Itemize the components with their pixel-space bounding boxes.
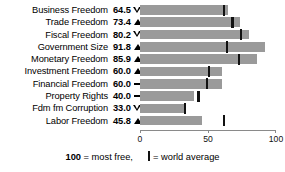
freedom-index-bar-chart: Business Freedom64.5Trade Freedom73.4Fis… xyxy=(0,0,285,172)
world-average-tick xyxy=(231,17,233,28)
row-category-label: Business Freedom xyxy=(32,4,108,16)
chart-row: Business Freedom64.5 xyxy=(0,4,285,16)
legend-scale-value: 100 xyxy=(66,152,82,162)
value-bar xyxy=(140,30,249,40)
x-axis-tick-label: 50 xyxy=(203,134,213,144)
chart-legend: 100 = most free,= world average xyxy=(0,151,285,167)
chart-row: Fdm fm Corruption33.0 xyxy=(0,102,285,114)
world-average-tick xyxy=(208,66,210,77)
row-bar-track xyxy=(140,67,285,77)
value-bar xyxy=(140,42,265,52)
x-axis-tick xyxy=(208,130,209,133)
row-category-label: Trade Freedom xyxy=(46,16,108,28)
x-axis-tick-label: 100 xyxy=(269,134,283,144)
row-bar-track xyxy=(140,5,285,15)
legend-scale-text: = most free, xyxy=(84,152,133,162)
row-value-label: 91.8 xyxy=(108,41,131,53)
row-category-label: Property Rights xyxy=(45,90,108,102)
row-bar-track xyxy=(140,79,285,89)
chart-row: Investment Freedom60.0 xyxy=(0,65,285,77)
row-category-label: Labor Freedom xyxy=(46,115,108,127)
chart-row: Labor Freedom45.8 xyxy=(0,115,285,127)
row-category-label: Financial Freedom xyxy=(33,78,108,90)
row-value-label: 40.0 xyxy=(108,90,131,102)
chart-row: Property Rights40.0 xyxy=(0,90,285,102)
chart-row: Financial Freedom60.0 xyxy=(0,78,285,90)
world-average-tick xyxy=(226,41,228,52)
row-bar-track xyxy=(140,54,285,64)
legend-marker-text: = world average xyxy=(153,152,219,162)
world-average-tick xyxy=(238,54,240,65)
row-value-label: 85.9 xyxy=(108,53,131,65)
x-axis-tick xyxy=(140,130,141,133)
row-value-label: 64.5 xyxy=(108,4,131,16)
world-average-tick xyxy=(223,115,225,126)
value-bar xyxy=(140,17,240,27)
world-average-tick xyxy=(223,5,225,16)
world-average-marker-icon xyxy=(148,151,150,161)
row-value-label: 73.4 xyxy=(108,16,131,28)
row-bar-track xyxy=(140,17,285,27)
row-bar-track xyxy=(140,104,285,114)
row-value-label: 80.2 xyxy=(108,29,131,41)
row-bar-track xyxy=(140,91,285,101)
value-bar xyxy=(140,91,194,101)
row-value-label: 60.0 xyxy=(108,65,131,77)
world-average-tick xyxy=(197,91,199,102)
row-bar-track xyxy=(140,30,285,40)
row-value-label: 33.0 xyxy=(108,102,131,114)
row-value-label: 60.0 xyxy=(108,78,131,90)
x-axis-tick-label: 0 xyxy=(138,134,143,144)
value-bar xyxy=(140,5,228,15)
x-axis-tick xyxy=(275,130,276,133)
world-average-tick xyxy=(206,78,208,89)
row-category-label: Fiscal Freedom xyxy=(45,29,108,41)
value-bar xyxy=(140,79,222,89)
row-category-label: Investment Freedom xyxy=(25,65,108,77)
x-axis: 050100 xyxy=(140,130,276,144)
chart-row: Monetary Freedom85.9 xyxy=(0,53,285,65)
world-average-tick xyxy=(240,29,242,40)
row-bar-track xyxy=(140,116,285,126)
chart-rows: Business Freedom64.5Trade Freedom73.4Fis… xyxy=(0,4,285,127)
row-category-label: Government Size xyxy=(38,41,108,53)
row-category-label: Monetary Freedom xyxy=(31,53,108,65)
row-bar-track xyxy=(140,42,285,52)
value-bar xyxy=(140,104,185,114)
chart-row: Fiscal Freedom80.2 xyxy=(0,29,285,41)
chart-row: Government Size91.8 xyxy=(0,41,285,53)
row-value-label: 45.8 xyxy=(108,115,131,127)
chart-row: Trade Freedom73.4 xyxy=(0,16,285,28)
world-average-tick xyxy=(184,103,186,114)
value-bar xyxy=(140,116,202,126)
row-category-label: Fdm fm Corruption xyxy=(32,102,108,114)
